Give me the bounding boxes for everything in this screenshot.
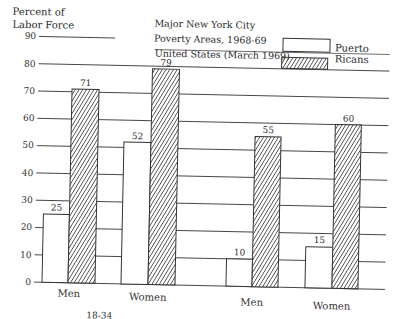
label-pr-women-2: 15	[314, 235, 326, 245]
label-us-women-1: 79	[160, 58, 172, 68]
legend-title: Major New York City Poverty Areas, 1968-…	[154, 16, 267, 48]
tick-70: 70	[23, 86, 35, 96]
legend-swatch-puerto-ricans	[283, 38, 330, 52]
bar-us-women-2	[332, 125, 361, 289]
bar-pr-women-2	[305, 247, 333, 289]
y-axis-title-line2: Labor Force	[12, 18, 74, 32]
category-women-2: Women	[313, 300, 351, 312]
tick-20: 20	[21, 222, 33, 232]
bar-pr-men-2	[226, 259, 253, 287]
y-axis-title: Percent of Labor Force	[12, 5, 74, 32]
bar-chart: 0 10 20 30 40 50 60 70 80 90	[0, 0, 399, 319]
bar-pr-women-1	[121, 142, 151, 285]
y-axis-title-line1: Percent of	[13, 5, 75, 19]
label-us-men-2: 55	[262, 125, 274, 135]
bar-us-women-1	[148, 69, 180, 285]
tick-60: 60	[23, 113, 35, 123]
label-pr-men-2: 10	[234, 247, 246, 257]
category-men-1: Men	[57, 288, 80, 299]
bars	[42, 67, 362, 289]
category-labels: Men Women Men Women 18-34	[57, 288, 351, 319]
bar-us-men-2	[252, 137, 281, 288]
tick-50: 50	[22, 140, 34, 150]
category-women-1: Women	[129, 291, 167, 303]
label-us-men-1: 71	[80, 78, 92, 88]
bar-us-men-1	[68, 89, 99, 283]
tick-30: 30	[21, 195, 33, 205]
label-pr-women-1: 52	[132, 131, 144, 141]
tick-0: 0	[25, 277, 31, 287]
label-us-women-2: 60	[343, 114, 355, 124]
category-men-2: Men	[240, 296, 263, 307]
y-axis-ticks: 0 10 20 30 40 50 60 70 80 90	[19, 31, 36, 287]
bar-pr-men-1	[42, 214, 69, 283]
group-label-18-34: 18-34	[86, 310, 112, 319]
tick-10: 10	[20, 250, 32, 260]
legend-label-puerto-ricans: Puerto Ricans	[335, 42, 399, 65]
label-pr-men-1: 25	[51, 202, 63, 212]
tick-40: 40	[22, 168, 34, 178]
tick-80: 80	[24, 59, 36, 69]
legend-title-line2: Poverty Areas, 1968-69	[154, 31, 267, 48]
tick-90: 90	[25, 31, 37, 41]
